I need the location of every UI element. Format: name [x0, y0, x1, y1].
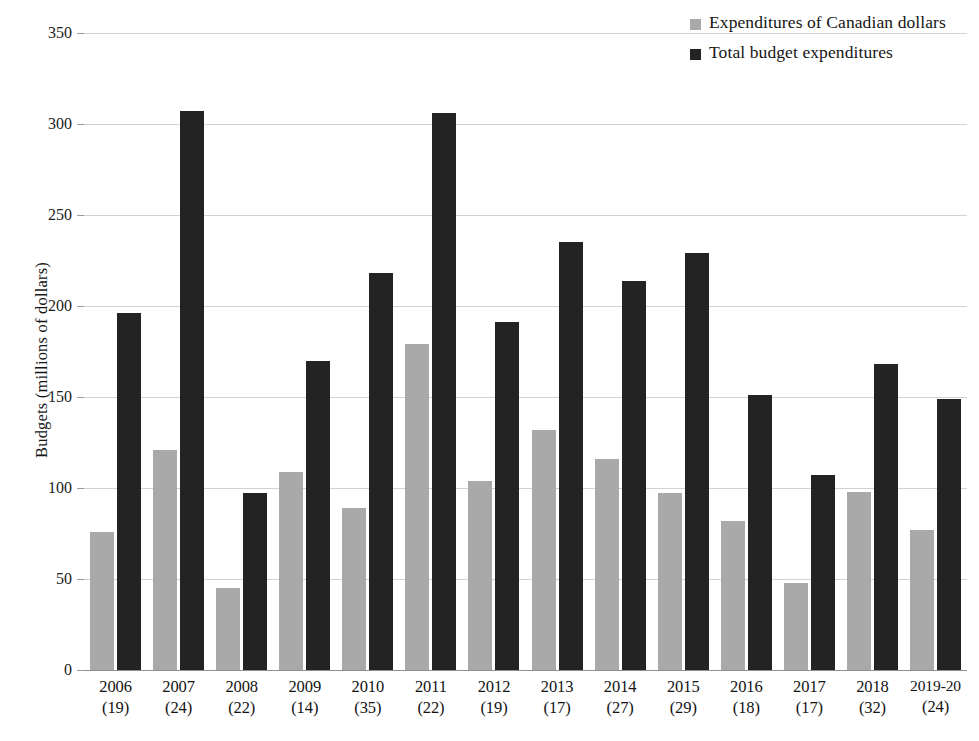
y-tick-label-300: 300	[48, 115, 72, 133]
x-tick-count: (32)	[841, 697, 904, 718]
x-tick-count: (27)	[589, 697, 652, 718]
bar-group	[778, 33, 841, 670]
x-tick-label-2010: 2010(35)	[336, 676, 399, 718]
x-tick-count: (29)	[652, 697, 715, 718]
x-tick-year: 2013	[526, 676, 589, 697]
y-tick-label-250: 250	[48, 206, 72, 224]
bar-total-2018[interactable]	[874, 364, 898, 670]
x-tick-year: 2010	[336, 676, 399, 697]
bar-group	[526, 33, 589, 670]
x-tick-year: 2008	[210, 676, 273, 697]
x-tick-label-2013: 2013(17)	[526, 676, 589, 718]
x-tick-label-2007: 2007(24)	[147, 676, 210, 718]
x-tick-count: (35)	[336, 697, 399, 718]
x-tick-label-2016: 2016(18)	[715, 676, 778, 718]
bar-expenditures-2016[interactable]	[721, 521, 745, 670]
x-tick-count: (18)	[715, 697, 778, 718]
bar-group	[336, 33, 399, 670]
x-tick-year: 2017	[778, 676, 841, 697]
bar-total-2007[interactable]	[180, 111, 204, 670]
bar-expenditures-2006[interactable]	[90, 532, 114, 670]
y-tick-label-100: 100	[48, 479, 72, 497]
x-tick-count: (19)	[462, 697, 525, 718]
x-tick-label-2009: 2009(14)	[273, 676, 336, 718]
x-tick-label-2017: 2017(17)	[778, 676, 841, 718]
legend-label-series-a: Expenditures of Canadian dollars	[709, 14, 946, 32]
bar-total-2019-20[interactable]	[937, 399, 961, 670]
bar-expenditures-2014[interactable]	[595, 459, 619, 670]
y-tick-label-200: 200	[48, 297, 72, 315]
legend-swatch-icon-series-a	[690, 19, 701, 30]
y-tick-label-350: 350	[48, 24, 72, 42]
x-tick-count: (19)	[84, 697, 147, 718]
bar-expenditures-2018[interactable]	[847, 492, 871, 670]
bar-expenditures-2015[interactable]	[658, 493, 682, 670]
x-tick-count: (22)	[399, 697, 462, 718]
x-tick-count: (14)	[273, 697, 336, 718]
bar-total-2010[interactable]	[369, 273, 393, 670]
x-tick-year: 2009	[273, 676, 336, 697]
gridline-0	[84, 670, 967, 671]
bar-total-2006[interactable]	[117, 313, 141, 670]
bar-expenditures-2017[interactable]	[784, 583, 808, 670]
y-tick-mark-50	[77, 579, 84, 580]
bar-expenditures-2019-20[interactable]	[910, 530, 934, 670]
x-tick-label-2015: 2015(29)	[652, 676, 715, 718]
x-tick-year: 2007	[147, 676, 210, 697]
x-tick-count: (17)	[526, 697, 589, 718]
x-tick-year: 2006	[84, 676, 147, 697]
bar-group	[210, 33, 273, 670]
x-tick-year: 2012	[462, 676, 525, 697]
bar-group	[273, 33, 336, 670]
bar-group	[904, 33, 967, 670]
bar-chart: Expenditures of Canadian dollars Total b…	[0, 0, 979, 741]
bar-total-2013[interactable]	[559, 242, 583, 670]
x-tick-year: 2014	[589, 676, 652, 697]
bar-group	[462, 33, 525, 670]
x-tick-label-2008: 2008(22)	[210, 676, 273, 718]
x-tick-year: 2019-20	[904, 676, 967, 696]
bar-expenditures-2007[interactable]	[153, 450, 177, 670]
bar-group	[399, 33, 462, 670]
bar-expenditures-2012[interactable]	[468, 481, 492, 670]
bar-total-2015[interactable]	[685, 253, 709, 670]
y-tick-mark-200	[77, 306, 84, 307]
x-tick-year: 2011	[399, 676, 462, 697]
bar-group	[589, 33, 652, 670]
bars-layer	[84, 33, 967, 670]
bar-total-2017[interactable]	[811, 475, 835, 670]
bar-expenditures-2011[interactable]	[405, 344, 429, 670]
y-tick-label-150: 150	[48, 388, 72, 406]
y-tick-mark-100	[77, 488, 84, 489]
y-tick-mark-0	[77, 670, 84, 671]
bar-total-2011[interactable]	[432, 113, 456, 670]
x-axis: 2006(19)2007(24)2008(22)2009(14)2010(35)…	[84, 676, 967, 718]
y-tick-mark-150	[77, 397, 84, 398]
bar-total-2014[interactable]	[622, 281, 646, 670]
x-tick-count: (24)	[904, 696, 967, 717]
bar-expenditures-2013[interactable]	[532, 430, 556, 670]
x-tick-year: 2016	[715, 676, 778, 697]
bar-expenditures-2009[interactable]	[279, 472, 303, 670]
bar-total-2008[interactable]	[243, 493, 267, 670]
bar-total-2012[interactable]	[495, 322, 519, 670]
bar-group	[715, 33, 778, 670]
y-tick-label-50: 50	[56, 570, 72, 588]
y-tick-mark-300	[77, 124, 84, 125]
bar-total-2016[interactable]	[748, 395, 772, 670]
bar-group	[147, 33, 210, 670]
bar-expenditures-2008[interactable]	[216, 588, 240, 670]
bar-total-2009[interactable]	[306, 361, 330, 670]
x-tick-label-2018: 2018(32)	[841, 676, 904, 718]
x-tick-label-2019-20: 2019-20(24)	[904, 676, 967, 718]
plot-area: 050100150200250300350	[84, 33, 967, 670]
x-tick-label-2012: 2012(19)	[462, 676, 525, 718]
x-tick-count: (22)	[210, 697, 273, 718]
x-tick-year: 2015	[652, 676, 715, 697]
x-tick-count: (24)	[147, 697, 210, 718]
y-tick-mark-250	[77, 215, 84, 216]
x-tick-count: (17)	[778, 697, 841, 718]
bar-expenditures-2010[interactable]	[342, 508, 366, 670]
y-tick-mark-350	[77, 33, 84, 34]
y-axis-title: Budgets (millions of dollars)	[32, 210, 52, 510]
